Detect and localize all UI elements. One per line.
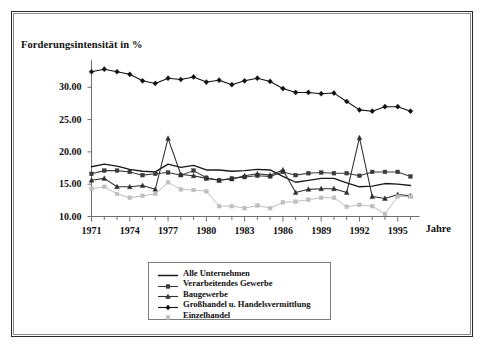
series-3 bbox=[89, 67, 413, 114]
legend-marker-square-icon bbox=[155, 309, 181, 320]
chart-legend: Alle UnternehmenVerarbeitendes GewerbeBa… bbox=[148, 262, 331, 320]
legend-label: Verarbeitendes Gewerbe bbox=[183, 278, 273, 288]
y-tick-label: 30.00 bbox=[40, 81, 82, 92]
x-tick-label: 1995 bbox=[378, 225, 418, 236]
legend-label: Alle Unternehmen bbox=[183, 268, 250, 278]
x-axis-title: Jahre bbox=[426, 223, 451, 234]
y-tick-label: 15.00 bbox=[40, 178, 82, 189]
legend-marker-line-icon bbox=[155, 267, 181, 278]
legend-label: Einzelhandel bbox=[183, 310, 230, 320]
legend-label: Baugewerbe bbox=[183, 289, 228, 299]
legend-item-1: Verarbeitendes Gewerbe bbox=[155, 278, 273, 289]
legend-item-3: Großhandel u. Handelsvermittlung bbox=[155, 299, 310, 310]
x-tick-label: 1980 bbox=[186, 225, 226, 236]
y-axis-ticks bbox=[88, 87, 92, 216]
y-tick-label: 20.00 bbox=[40, 146, 82, 157]
x-tick-label: 1974 bbox=[110, 225, 150, 236]
legend-item-4: Einzelhandel bbox=[155, 309, 230, 320]
x-axis-ticks bbox=[92, 217, 411, 222]
legend-marker-triangle-icon bbox=[155, 288, 181, 299]
x-tick-label: 1977 bbox=[148, 225, 188, 236]
legend-marker-diamond-icon bbox=[155, 299, 181, 310]
x-tick-label: 1992 bbox=[339, 225, 379, 236]
series-2 bbox=[89, 135, 413, 200]
x-tick-label: 1971 bbox=[72, 225, 112, 236]
series-0 bbox=[92, 164, 411, 187]
x-tick-label: 1989 bbox=[301, 225, 341, 236]
x-tick-label: 1986 bbox=[263, 225, 303, 236]
legend-item-2: Baugewerbe bbox=[155, 288, 228, 299]
legend-label: Großhandel u. Handelsvermittlung bbox=[183, 299, 310, 309]
figure-page: Forderungsintensität in % 10.0015.0020.0… bbox=[0, 0, 482, 358]
x-tick-label: 1983 bbox=[225, 225, 265, 236]
legend-marker-square-icon bbox=[155, 278, 181, 289]
axes bbox=[92, 60, 420, 217]
y-tick-label: 10.00 bbox=[40, 211, 82, 222]
legend-item-0: Alle Unternehmen bbox=[155, 267, 250, 278]
y-tick-label: 25.00 bbox=[40, 114, 82, 125]
